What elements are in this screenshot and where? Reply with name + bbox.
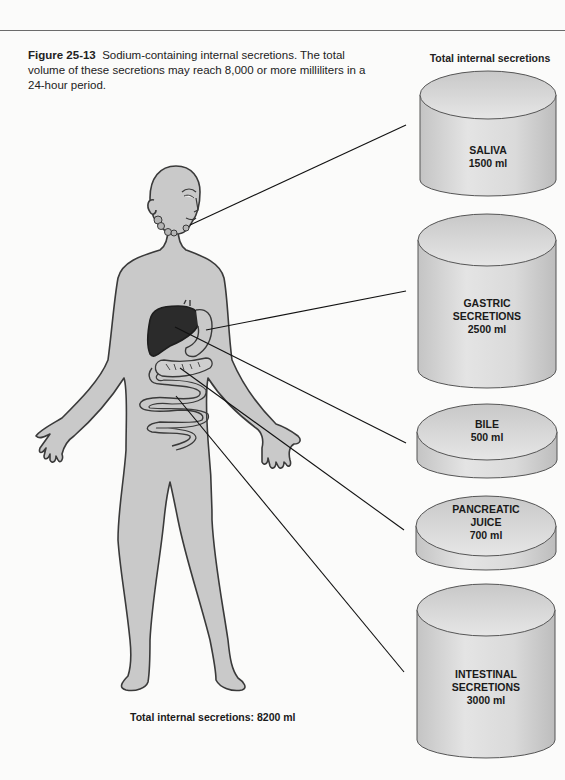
secretion-name: SALIVA — [438, 144, 538, 157]
secretions-diagram — [0, 0, 565, 780]
body-silhouette — [36, 228, 300, 691]
label-intestinal: INTESTINAL SECRETIONS 3000 ml — [431, 668, 541, 707]
secretion-volume: 700 ml — [431, 529, 541, 542]
label-gastric: GASTRIC SECRETIONS 2500 ml — [432, 297, 542, 336]
secretion-name-line2: JUICE — [431, 516, 541, 529]
secretion-name: GASTRIC — [432, 297, 542, 310]
secretion-volume: 500 ml — [437, 431, 537, 444]
label-bile: BILE 500 ml — [437, 418, 537, 444]
secretion-name: INTESTINAL — [431, 668, 541, 681]
secretion-name: PANCREATIC — [431, 503, 541, 516]
human-figure — [36, 166, 300, 691]
secretion-volume: 1500 ml — [438, 157, 538, 170]
secretion-name-line2: SECRETIONS — [431, 681, 541, 694]
secretion-volume: 2500 ml — [432, 323, 542, 336]
secretion-volume: 3000 ml — [431, 694, 541, 707]
leader-pancreatic — [180, 368, 404, 530]
secretion-name: BILE — [437, 418, 537, 431]
label-pancreatic: PANCREATIC JUICE 700 ml — [431, 503, 541, 542]
total-secretions-label: Total internal secretions: 8200 ml — [130, 711, 296, 723]
secretion-name-line2: SECRETIONS — [432, 310, 542, 323]
leader-bile — [175, 327, 406, 443]
leader-gastric — [206, 291, 406, 330]
label-saliva: SALIVA 1500 ml — [438, 144, 538, 170]
cylinder-saliva — [420, 71, 556, 196]
leader-saliva — [190, 125, 406, 225]
